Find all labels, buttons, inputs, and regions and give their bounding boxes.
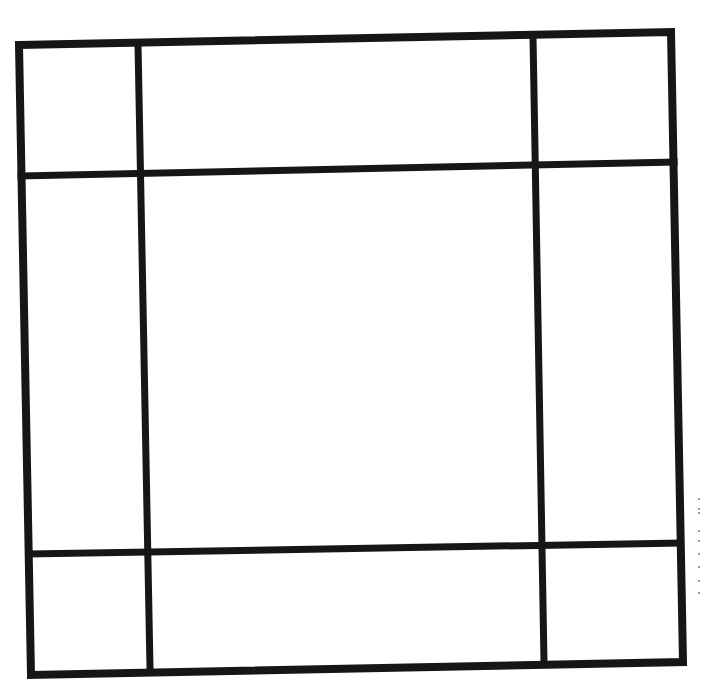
horizontal-dividers (21, 162, 680, 554)
scan-speck (698, 553, 700, 555)
scan-speck (698, 580, 700, 582)
scan-speck (698, 592, 700, 594)
scan-speck (698, 508, 700, 510)
scan-speck (698, 512, 700, 514)
scan-artifacts (698, 498, 700, 594)
outer-frame (19, 32, 683, 675)
scan-speck (698, 530, 700, 532)
horizontal-divider-1 (21, 162, 674, 176)
scan-speck (698, 498, 700, 500)
scan-speck (698, 540, 700, 542)
vertical-divider-2 (533, 36, 544, 662)
horizontal-divider-2 (29, 543, 680, 554)
vertical-dividers (138, 36, 544, 668)
scan-speck (698, 566, 700, 568)
vertical-divider-1 (138, 44, 150, 668)
grid-diagram (0, 0, 703, 686)
